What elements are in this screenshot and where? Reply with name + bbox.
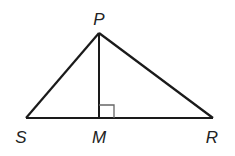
triangle-diagram: P S M R [0, 0, 235, 156]
right-angle-marker [99, 105, 114, 118]
segment-pr [99, 33, 213, 118]
label-m: M [92, 128, 107, 147]
label-p: P [93, 10, 105, 29]
label-r: R [206, 128, 218, 147]
segment-ps [26, 33, 99, 118]
label-s: S [15, 128, 27, 147]
